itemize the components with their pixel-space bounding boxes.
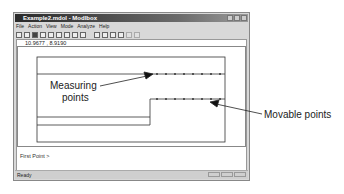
annotation-movable: Movable points [264, 109, 331, 120]
geometry-drawing [0, 0, 344, 194]
annotation-measuring-line2: points [62, 92, 89, 103]
annotation-measuring-line1: Measuring [50, 80, 97, 91]
